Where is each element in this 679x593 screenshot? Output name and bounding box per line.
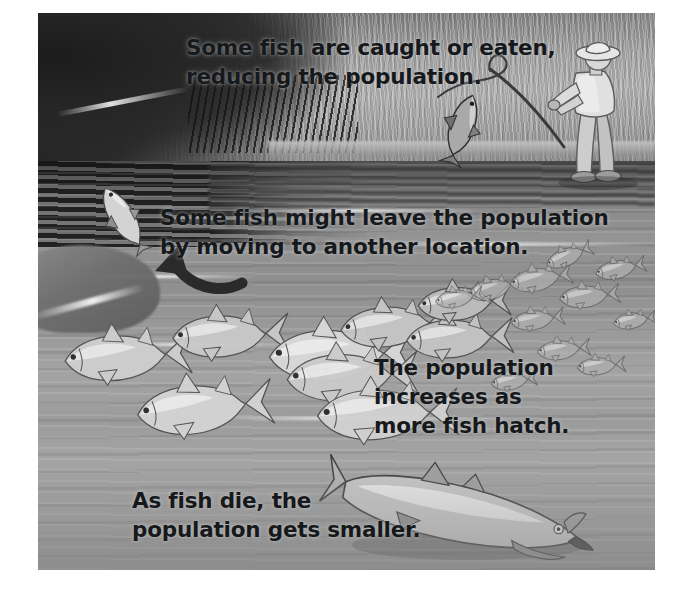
caption-population-increases: The population increases as more fish ha… (374, 353, 569, 440)
fisherman-figure (546, 33, 652, 197)
hatchling-fish (431, 277, 486, 319)
caption-fish-die: As fish die, the population gets smaller… (132, 486, 420, 544)
caption-fish-leave: Some fish might leave the population by … (160, 203, 609, 261)
hatchling-fish (610, 302, 655, 339)
hooked-fish (430, 89, 496, 161)
hatchling-fish (575, 347, 628, 385)
illustration-plate: Some fish are caught or eaten, reducing … (38, 13, 655, 570)
illustration-canvas: Some fish are caught or eaten, reducing … (0, 0, 679, 593)
caption-caught-or-eaten: Some fish are caught or eaten, reducing … (186, 33, 556, 91)
